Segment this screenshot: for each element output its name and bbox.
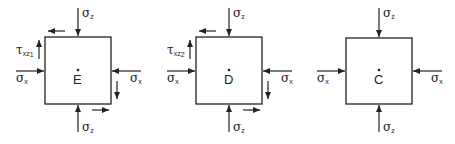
point-label: E xyxy=(73,72,82,87)
sigma-z-bottom-label: σz xyxy=(383,120,395,134)
sigma-x-right-label: σx xyxy=(281,71,293,85)
point-marker xyxy=(378,69,381,72)
sigma-x-left-label: σx xyxy=(317,71,329,85)
sigma-z-bottom-label: σz xyxy=(82,120,94,134)
point-label: C xyxy=(374,72,383,87)
point-marker xyxy=(228,69,231,72)
sigma-z-bottom-label: σz xyxy=(233,120,245,134)
sigma-z-top-label: σz xyxy=(233,6,245,20)
stress-element-diagram: E σz σz σx σx τxz1 D σz σz σx σx τxz2 C … xyxy=(0,0,455,144)
sigma-x-right-label: σx xyxy=(431,71,443,85)
point-label: D xyxy=(224,72,233,87)
sigma-x-left-label: σx xyxy=(167,71,179,85)
sigma-z-top-label: σz xyxy=(383,6,395,20)
stress-element-e: E σz σz σx σx τxz1 xyxy=(16,6,142,134)
sigma-z-top-label: σz xyxy=(82,6,94,20)
tau-label: τxz2 xyxy=(167,43,185,58)
sigma-x-left-label: σx xyxy=(16,71,28,85)
tau-label: τxz1 xyxy=(16,43,34,58)
sigma-x-right-label: σx xyxy=(130,71,142,85)
stress-element-c: C σz σz σx σx xyxy=(317,6,443,134)
stress-element-d: D σz σz σx σx τxz2 xyxy=(167,6,293,134)
point-marker xyxy=(77,69,80,72)
diagram-canvas: E σz σz σx σx τxz1 D σz σz σx σx τxz2 C … xyxy=(0,0,455,144)
